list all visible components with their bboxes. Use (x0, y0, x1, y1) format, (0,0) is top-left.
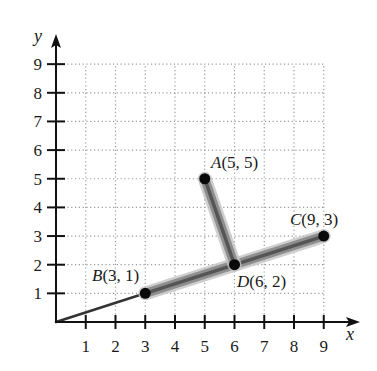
y-tick-label: 8 (34, 84, 43, 103)
point-a (199, 173, 210, 184)
x-tick-label: 8 (290, 337, 299, 356)
segment-line (56, 293, 145, 322)
y-tick-label: 5 (34, 170, 43, 189)
point-label-c: C(9, 3) (290, 210, 338, 229)
x-tick-label: 1 (82, 337, 91, 356)
point-b (140, 288, 151, 299)
axes: x y (32, 26, 360, 344)
x-tick-label: 6 (230, 337, 239, 356)
y-tick-label: 3 (34, 227, 43, 246)
y-axis-label: y (32, 26, 42, 46)
point-label-d: D(6, 2) (236, 272, 286, 291)
x-tick-label: 7 (260, 337, 269, 356)
coordinate-plane: x y 123456789123456789 A(5, 5)B(3, 1)C(9… (0, 0, 377, 371)
y-tick-label: 9 (34, 55, 43, 74)
point-label-b: B(3, 1) (92, 266, 139, 285)
segment-line (205, 179, 235, 265)
x-tick-label: 4 (171, 337, 180, 356)
y-tick-label: 2 (34, 256, 43, 275)
axis-ticks: 123456789123456789 (34, 55, 329, 356)
y-tick-label: 4 (34, 198, 43, 217)
point-d (229, 259, 240, 270)
x-tick-label: 3 (141, 337, 150, 356)
x-tick-label: 2 (111, 337, 120, 356)
y-tick-label: 6 (34, 141, 43, 160)
y-tick-label: 1 (34, 284, 43, 303)
y-tick-label: 7 (34, 112, 43, 131)
point-label-a: A(5, 5) (210, 153, 258, 172)
x-tick-label: 5 (201, 337, 210, 356)
x-tick-label: 9 (320, 337, 329, 356)
point-c (318, 231, 329, 242)
x-axis-label: x (345, 324, 354, 344)
segments (56, 179, 324, 322)
